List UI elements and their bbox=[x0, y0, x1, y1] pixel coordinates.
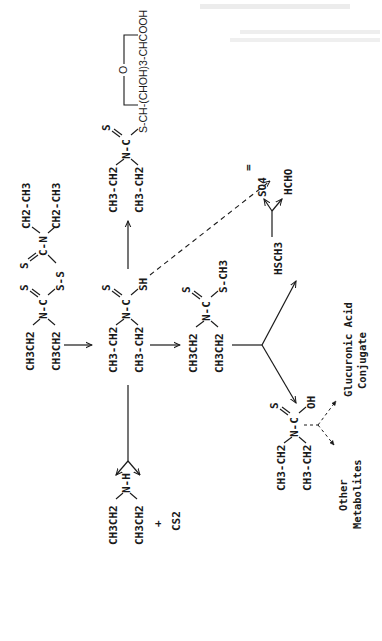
thione-s-label: S bbox=[100, 124, 113, 131]
to-methanethiol-arrow bbox=[262, 281, 296, 345]
ethyl-label: CH3CH2 bbox=[107, 505, 120, 545]
ethyl-label: CH3-CH2 bbox=[133, 167, 146, 213]
ethyl-label: CH2-CH3 bbox=[50, 183, 63, 229]
metabolites-label: Metabolites bbox=[351, 459, 363, 529]
ethyl-label: CH3CH2 bbox=[50, 331, 63, 371]
n-c-label: N-C bbox=[200, 301, 213, 321]
ethyl-label: CH3-CH2 bbox=[107, 327, 120, 373]
sulfate-label: SO4 bbox=[256, 177, 269, 197]
pathway-diagram: CH3CH2 CH3CH2 N-C S S-S S C-N CH2-CH3 CH… bbox=[0, 0, 382, 641]
disulfide-label: S-S bbox=[54, 271, 67, 291]
to-monothiocarbamate-arrow bbox=[262, 345, 296, 403]
diethylamine-cs2-structure: CH3CH2 CH3CH2 N-H + CS2 bbox=[107, 473, 183, 545]
glucuronic-acid-label: Glucuronic Acid bbox=[342, 302, 354, 397]
thione-s-label: S bbox=[180, 286, 193, 293]
thione-s-label: S bbox=[268, 402, 281, 409]
n-c-label: N-C bbox=[120, 299, 133, 319]
methyl-ester-structure: CH3CH2 CH3CH2 N-C S S-CH3 bbox=[180, 260, 230, 373]
oxidation-dashed-arrow bbox=[150, 181, 270, 275]
c-n-label: C-N bbox=[37, 236, 50, 256]
to-glucuronic-dashed-arrow bbox=[318, 401, 336, 425]
plus-sign: + bbox=[151, 520, 164, 527]
n-c-label: N-C bbox=[37, 299, 50, 319]
ethyl-label: CH3-CH2 bbox=[133, 327, 146, 373]
faint-header bbox=[200, 4, 380, 42]
ethyl-label: CH3CH2 bbox=[24, 331, 37, 371]
thione-s-label: S bbox=[100, 284, 113, 291]
to-other-dashed-arrow bbox=[318, 425, 334, 445]
ethyl-label: CH3CH2 bbox=[213, 333, 226, 373]
hydroxyl-label: OH bbox=[305, 396, 318, 409]
ethyl-label: CH3CH2 bbox=[187, 333, 200, 373]
ethyl-label: CH3-CH2 bbox=[275, 445, 288, 491]
thiol-label: SH bbox=[137, 278, 150, 291]
ethyl-label: CH2-CH3 bbox=[20, 183, 33, 229]
conjugate-label: Conjugate bbox=[356, 332, 368, 389]
ethyl-label: CH3-CH2 bbox=[107, 167, 120, 213]
ring-oxygen-label: O bbox=[117, 66, 129, 74]
ethyl-label: CH3CH2 bbox=[133, 505, 146, 545]
sulfate-charge: = bbox=[242, 164, 255, 171]
methanethiol-branch: HSCH3 SO4 = HCHO bbox=[242, 164, 295, 275]
amine-label: N-H bbox=[120, 473, 133, 493]
thione-s-label: S bbox=[18, 284, 31, 291]
formaldehyde-label: HCHO bbox=[282, 168, 295, 195]
n-c-label: N-C bbox=[288, 417, 301, 437]
diethyldithiocarbamic-acid-structure: CH3-CH2 CH3-CH2 N-C S SH bbox=[100, 278, 150, 373]
glucuronide-chain-label: S-CH-(CHOH)3-CHCOOH bbox=[137, 10, 149, 133]
other-label: Other bbox=[337, 479, 349, 511]
monothiocarbamate-structure: CH3-CH2 CH3-CH2 N-C S OH bbox=[268, 396, 318, 491]
metabolic-pathway-figure: CH3CH2 CH3CH2 N-C S S-S S C-N CH2-CH3 CH… bbox=[0, 0, 382, 641]
n-c-label: N-C bbox=[120, 139, 133, 159]
methanethiol-label: HSCH3 bbox=[272, 242, 285, 275]
carbon-disulfide-label: CS2 bbox=[170, 511, 183, 531]
methylthio-label: S-CH3 bbox=[217, 260, 230, 293]
thione-s-label: S bbox=[18, 262, 31, 269]
glucuronide-structure: CH3-CH2 CH3-CH2 N-C S S-CH-(CHOH)3-CHCOO… bbox=[100, 10, 149, 213]
ethyl-label: CH3-CH2 bbox=[301, 445, 314, 491]
disulfiram-structure: CH3CH2 CH3CH2 N-C S S-S S C-N CH2-CH3 CH… bbox=[18, 183, 67, 371]
